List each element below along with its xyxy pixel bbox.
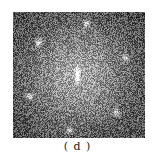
figure-caption: ( d ) [0, 140, 155, 154]
fft-image-panel [13, 12, 145, 138]
fft-spectrum-image [13, 12, 145, 138]
figure: ( d ) [0, 0, 155, 161]
